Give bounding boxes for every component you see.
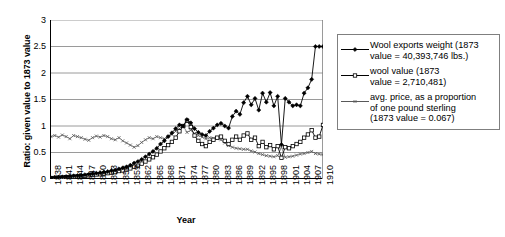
x-tick-label: 1856	[122, 165, 131, 185]
y-axis-tick-labels: 00.511.522.53	[16, 0, 46, 237]
legend-label: wool value (1873 value = 2,710,481)	[370, 66, 446, 87]
x-axis-title: Year	[50, 215, 322, 225]
x-tick-label: 1877	[201, 165, 210, 185]
x-tick-label: 1886	[235, 165, 244, 185]
x-tick-label: 1904	[303, 165, 312, 185]
y-tick-label: 1.5	[20, 95, 46, 104]
chart-container: Ratio: given value to 1873 value 00.511.…	[0, 0, 505, 237]
x-tick-label: 1871	[178, 165, 187, 185]
x-tick-label: 1874	[190, 165, 199, 185]
x-tick-label: 1895	[269, 165, 278, 185]
x-tick-label: 1910	[326, 165, 335, 185]
x-tick-label: 1898	[280, 165, 289, 185]
y-tick-label: 0	[20, 175, 46, 184]
x-tick-label: 1859	[133, 165, 142, 185]
x-tick-label: 1841	[65, 165, 74, 185]
x-tick-label: 1892	[258, 165, 267, 185]
plot-area	[50, 20, 322, 179]
x-tick-label: 1901	[292, 165, 301, 185]
legend-item: wool value (1873 value = 2,710,481)	[340, 66, 495, 87]
x-tick-label: 1868	[167, 165, 176, 185]
y-tick-label: 1	[20, 122, 46, 131]
x-tick-label: 1883	[224, 165, 233, 185]
x-axis-tick-labels: 1838184118441847185018531856185918621865…	[50, 179, 322, 219]
x-tick-label: 1838	[54, 165, 63, 185]
legend-label: avg. price, as a proportion of one pound…	[370, 92, 476, 124]
legend-label: Wool exports weight (1873 value = 40,393…	[370, 40, 479, 61]
y-tick-label: 3	[20, 16, 46, 25]
plot-svg	[51, 20, 323, 179]
legend-item: Wool exports weight (1873 value = 40,393…	[340, 40, 495, 61]
x-tick-label: 1853	[110, 165, 119, 185]
x-tick-label: 1889	[246, 165, 255, 185]
x-tick-label: 1880	[212, 165, 221, 185]
y-tick-label: 2	[20, 69, 46, 78]
legend-marker-filled-diamond-icon	[340, 41, 370, 52]
y-tick-label: 2.5	[20, 42, 46, 51]
chart-legend: Wool exports weight (1873 value = 40,393…	[337, 34, 500, 130]
legend-item: avg. price, as a proportion of one pound…	[340, 92, 495, 124]
x-tick-label: 1862	[144, 165, 153, 185]
x-tick-label: 1865	[156, 165, 165, 185]
x-tick-label: 1850	[99, 165, 108, 185]
x-tick-label: 1844	[76, 165, 85, 185]
x-tick-label: 1907	[314, 165, 323, 185]
legend-marker-open-square-icon	[340, 67, 370, 78]
legend-marker-small-x-icon	[340, 93, 370, 104]
x-tick-label: 1847	[88, 165, 97, 185]
series-2	[51, 125, 323, 159]
y-tick-label: 0.5	[20, 148, 46, 157]
